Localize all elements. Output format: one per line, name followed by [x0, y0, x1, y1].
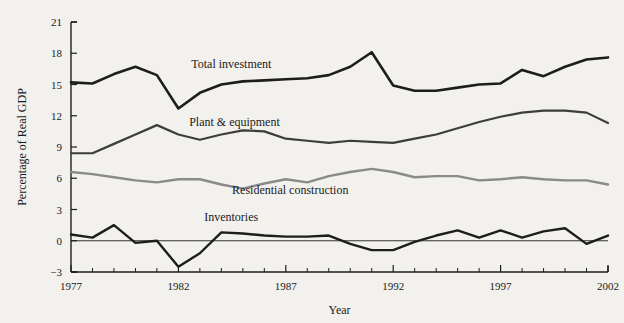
y-tick-label-0: 0: [57, 235, 63, 247]
x-tick-label-1992: 1992: [382, 280, 404, 292]
series-label-group: Total investmentPlant & equipmentResiden…: [189, 57, 348, 224]
x-tick-label-1977: 1977: [60, 280, 83, 292]
line-chart-canvas: −3036912151821 197719821987199219972002 …: [0, 0, 624, 323]
y-tick-label-9: 9: [57, 141, 63, 153]
y-tick-label-15: 15: [51, 79, 63, 91]
x-tick-label-1982: 1982: [167, 280, 189, 292]
data-series-group: [71, 52, 608, 267]
y-tick-label-18: 18: [51, 47, 63, 59]
series-line-inventories: [71, 225, 608, 267]
x-tick-label-2002: 2002: [597, 280, 619, 292]
y-tick-label-3: 3: [57, 204, 63, 216]
series-line-plant-equipment: [71, 111, 608, 154]
x-axis: 197719821987199219972002: [60, 265, 619, 292]
y-tick-label-12: 12: [51, 110, 62, 122]
y-axis-title: Percentage of Real GDP: [15, 88, 29, 206]
y-axis: −3036912151821: [50, 16, 77, 278]
x-tick-label-1997: 1997: [490, 280, 513, 292]
x-tick-label-1987: 1987: [275, 280, 298, 292]
x-axis-title: Year: [328, 303, 350, 317]
series-label-inventories: Inventories: [204, 210, 258, 224]
series-label-total-investment: Total investment: [191, 57, 272, 71]
series-label-residential-construction: Residential construction: [232, 183, 348, 197]
y-tick-label-6: 6: [57, 172, 63, 184]
chart-figure: −3036912151821 197719821987199219972002 …: [0, 0, 624, 323]
y-tick-label--3: −3: [50, 266, 62, 278]
series-label-plant-equipment: Plant & equipment: [189, 115, 280, 129]
series-line-total-investment: [71, 52, 608, 108]
y-tick-label-21: 21: [51, 16, 62, 28]
